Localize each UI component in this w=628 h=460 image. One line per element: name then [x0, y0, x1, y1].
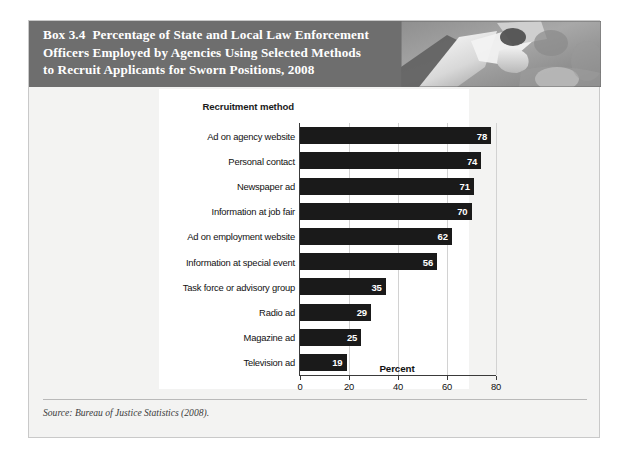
- bar-category-label: Task force or advisory group: [183, 281, 295, 292]
- box-header: Box 3.4Percentage of State and Local Law…: [29, 21, 601, 87]
- bar-value-label: 29: [357, 307, 367, 318]
- bar-category-label: Newspaper ad: [237, 181, 295, 192]
- box-title-line3: to Recruit Applicants for Sworn Position…: [43, 62, 315, 77]
- category-axis-title: Recruitment method: [203, 101, 294, 112]
- bar-row: Information at special event56: [300, 253, 496, 270]
- bar-category-label: Magazine ad: [244, 332, 295, 343]
- bar-value-label: 25: [347, 332, 357, 343]
- bar-category-label: Radio ad: [259, 307, 295, 318]
- bar: 70: [300, 203, 472, 220]
- bar-row: Ad on agency website78: [300, 127, 496, 144]
- source-note: Source: Bureau of Justice Statistics (20…: [43, 407, 209, 418]
- bar-row: Radio ad29: [300, 304, 496, 321]
- bar: 74: [300, 152, 481, 169]
- bar-value-label: 62: [438, 231, 448, 242]
- x-axis-tick: [496, 376, 497, 380]
- bar-row: Personal contact74: [300, 152, 496, 169]
- bar-value-label: 56: [423, 256, 433, 267]
- bar: 35: [300, 278, 386, 295]
- bar-category-label: Personal contact: [228, 155, 295, 166]
- bar-category-label: Ad on agency website: [207, 130, 295, 141]
- box-title: Box 3.4Percentage of State and Local Law…: [43, 26, 413, 79]
- x-axis-tick-label: 40: [393, 381, 403, 392]
- bar: 19: [300, 354, 347, 371]
- bar-row: Information at job fair70: [300, 203, 496, 220]
- bar-category-label: Television ad: [243, 357, 295, 368]
- x-axis-title: Percent: [379, 363, 414, 374]
- bar-category-label: Ad on employment website: [187, 231, 295, 242]
- header-photo: [401, 21, 601, 87]
- bar-value-label: 19: [332, 357, 342, 368]
- gridline: [496, 123, 497, 375]
- x-axis-tick-label: 0: [297, 381, 302, 392]
- source-divider: [43, 399, 587, 400]
- x-axis-tick: [349, 376, 350, 380]
- bar: 25: [300, 329, 361, 346]
- bar-row: Newspaper ad71: [300, 178, 496, 195]
- bar-value-label: 74: [467, 155, 477, 166]
- box-title-line1: Percentage of State and Local Law Enforc…: [92, 27, 369, 42]
- x-axis-tick: [300, 376, 301, 380]
- bar-value-label: 70: [457, 206, 467, 217]
- bar: 29: [300, 304, 371, 321]
- x-axis-tick-label: 80: [491, 381, 501, 392]
- bar-category-label: Information at special event: [186, 256, 295, 267]
- bar-row: Magazine ad25: [300, 329, 496, 346]
- bar: 56: [300, 253, 437, 270]
- x-axis-tick: [398, 376, 399, 380]
- box-title-line2: Officers Employed by Agencies Using Sele…: [43, 45, 361, 60]
- bar-value-label: 78: [477, 130, 487, 141]
- bar: 78: [300, 127, 491, 144]
- box-number: Box 3.4: [43, 27, 85, 42]
- chart: Recruitment method Ad on agency website7…: [57, 89, 577, 399]
- bar-value-label: 35: [371, 281, 381, 292]
- bar: 71: [300, 178, 474, 195]
- bar-row: Ad on employment website62: [300, 228, 496, 245]
- bar: 62: [300, 228, 452, 245]
- bar-row: Task force or advisory group35: [300, 278, 496, 295]
- screenshot-root: Box 3.4Percentage of State and Local Law…: [0, 0, 628, 460]
- x-axis-tick-label: 60: [442, 381, 452, 392]
- x-axis-tick: [447, 376, 448, 380]
- bar-category-label: Information at job fair: [212, 206, 295, 217]
- bar-value-label: 71: [460, 181, 470, 192]
- x-axis-tick-label: 20: [344, 381, 354, 392]
- plot-area: Recruitment method Ad on agency website7…: [299, 123, 496, 376]
- figure-box: Box 3.4Percentage of State and Local Law…: [28, 20, 600, 438]
